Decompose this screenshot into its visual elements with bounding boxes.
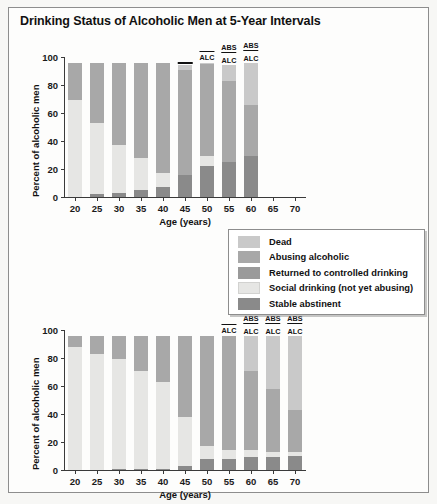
bar-stack [288, 330, 303, 470]
bar-segment [134, 63, 149, 158]
x-tick [141, 198, 142, 201]
bar-segment [112, 145, 127, 193]
y-tick-label: 80 [38, 353, 58, 364]
y-tick-label: 0 [38, 465, 58, 476]
bar-segment [134, 158, 149, 190]
legend-label: Returned to controlled drinking [269, 268, 408, 278]
bar-segment [134, 469, 149, 470]
y-tick [61, 85, 64, 86]
x-tick [75, 471, 76, 474]
y-tick [61, 414, 64, 415]
bar-annotation-secondary: ALC [243, 54, 258, 63]
bar-stack [90, 330, 105, 470]
x-tick-label: 45 [180, 203, 191, 214]
x-tick-label: 30 [114, 476, 125, 487]
y-tick [61, 169, 64, 170]
x-tick [251, 198, 252, 201]
bar-segment [178, 65, 193, 69]
y-tick [61, 442, 64, 443]
bar-stack [178, 57, 193, 197]
bar-annotation-primary: ALC [199, 51, 214, 62]
y-tick [61, 470, 64, 471]
bar-segment [134, 371, 149, 469]
x-tick-label: 70 [290, 476, 301, 487]
bar-annotation-primary: ALC [221, 324, 236, 335]
bar-segment [266, 389, 281, 452]
legend: DeadAbusing alcoholicReturned to control… [228, 229, 425, 315]
y-axis [64, 57, 65, 198]
bar-annotation-secondary: ALC [265, 327, 280, 336]
y-axis-title: Percent of alcoholic men [30, 85, 41, 197]
bar-segment [156, 187, 171, 197]
bar-segment [112, 469, 127, 470]
bar-annotation-primary: ABS [221, 43, 236, 53]
x-axis-title: Age (years) [159, 216, 211, 227]
bar-stack [68, 330, 83, 470]
bar-annotation-secondary: ALC [287, 327, 302, 336]
legend-swatch [238, 236, 260, 248]
x-tick-label: 20 [70, 476, 81, 487]
x-tick-label: 50 [202, 203, 213, 214]
bar-stack [134, 330, 149, 470]
bar-segment [156, 382, 171, 469]
x-tick-label: 60 [246, 203, 257, 214]
x-tick-label: 30 [114, 203, 125, 214]
x-tick-label: 20 [70, 203, 81, 214]
x-tick [229, 471, 230, 474]
y-tick-label: 40 [38, 136, 58, 147]
x-tick-label: 65 [268, 203, 279, 214]
bar-stack [178, 330, 193, 470]
bar-segment [244, 450, 259, 457]
x-tick [141, 471, 142, 474]
bar-segment [68, 336, 83, 347]
bar-segment [178, 175, 193, 197]
bar-segment [222, 65, 237, 80]
y-tick [61, 386, 64, 387]
bar-stack [112, 330, 127, 470]
x-tick-label: 60 [246, 476, 257, 487]
bar-segment [178, 70, 193, 175]
bar-segment [156, 336, 171, 382]
bar-segment [156, 173, 171, 187]
x-tick-label: 35 [136, 476, 147, 487]
y-tick-label: 100 [38, 325, 58, 336]
y-tick [61, 57, 64, 58]
x-tick-label: 45 [180, 476, 191, 487]
bar-annotation-primary: ABS [265, 314, 280, 324]
y-tick-label: 20 [38, 164, 58, 175]
y-tick-label: 40 [38, 409, 58, 420]
bar-segment [244, 336, 259, 371]
bar-annotation-secondary: ALC [221, 56, 236, 65]
chart-bottom: 020406080100Percent of alcoholic men2025… [18, 318, 328, 504]
y-tick-label: 60 [38, 381, 58, 392]
bar-stack [68, 57, 83, 197]
y-axis-title: Percent of alcoholic men [30, 358, 41, 470]
bar-stack [156, 57, 171, 197]
y-tick [61, 113, 64, 114]
x-tick [185, 198, 186, 201]
x-tick [119, 471, 120, 474]
x-tick [163, 471, 164, 474]
x-tick-label: 70 [290, 203, 301, 214]
bar-annotation-rule [178, 62, 193, 63]
x-tick-label: 25 [92, 476, 103, 487]
bar-stack [112, 57, 127, 197]
bar-segment [222, 162, 237, 197]
x-tick-label: 40 [158, 203, 169, 214]
bar-segment [266, 457, 281, 470]
figure-page: Drinking Status of Alcoholic Men at 5-Ye… [0, 0, 437, 504]
bar-segment [156, 469, 171, 470]
legend-swatch [238, 282, 260, 294]
bar-segment [112, 336, 127, 360]
x-tick [207, 198, 208, 201]
bar-segment [90, 123, 105, 194]
legend-swatch [238, 267, 260, 279]
legend-label: Stable abstinent [269, 299, 341, 309]
bar-segment [222, 450, 237, 458]
bar-segment [112, 359, 127, 468]
x-tick [97, 471, 98, 474]
x-tick [163, 198, 164, 201]
x-tick [97, 198, 98, 201]
y-tick [61, 358, 64, 359]
chart-top: 020406080100Percent of alcoholic men2025… [18, 45, 328, 235]
